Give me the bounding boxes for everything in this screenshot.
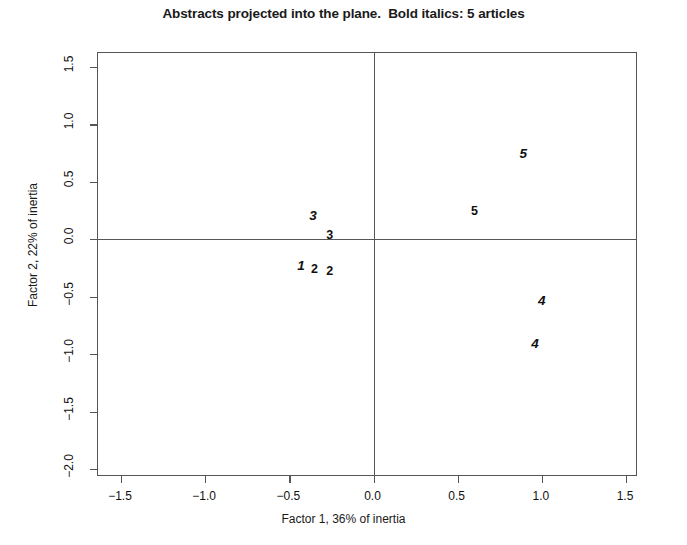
y-tick-mark: [90, 124, 98, 125]
x-tick-mark: [542, 475, 543, 483]
x-tick-mark: [374, 475, 375, 483]
x-tick-label: −1.5: [108, 489, 132, 503]
y-tick-label: −2.0: [56, 459, 82, 473]
y-tick-mark: [90, 354, 98, 355]
data-point-label: 3: [326, 228, 333, 241]
y-tick-mark: [90, 67, 98, 68]
y-tick-label: −1.5: [56, 402, 82, 416]
data-point-label: 2: [311, 263, 318, 276]
page-title: Abstracts projected into the plane. Bold…: [0, 6, 687, 21]
y-tick-mark: [90, 239, 98, 240]
x-axis-label: Factor 1, 36% of inertia: [0, 512, 687, 526]
x-tick-label: 0.0: [364, 489, 381, 503]
data-point-label: 1: [297, 259, 305, 273]
y-tick-mark: [90, 412, 98, 413]
x-tick-mark: [626, 475, 627, 483]
y-tick-mark: [90, 297, 98, 298]
y-tick-label: 1.5: [56, 57, 82, 71]
y-tick-mark: [90, 182, 98, 183]
y-tick-label: 1.0: [56, 114, 82, 128]
data-point-label: 5: [520, 148, 528, 162]
scatter-plot-figure: Abstracts projected into the plane. Bold…: [0, 0, 687, 545]
x-tick-label: 1.0: [532, 489, 549, 503]
data-point-label: 2: [326, 265, 333, 278]
data-point-label: 3: [309, 210, 317, 224]
x-tick-mark: [205, 475, 206, 483]
plot-area: 331225544: [97, 52, 637, 476]
y-axis-label: Factor 2, 22% of inertia: [26, 125, 40, 365]
horizontal-reference-line: [98, 239, 636, 240]
y-tick-label: 0.0: [56, 229, 82, 243]
y-tick-label: −0.5: [56, 287, 82, 301]
x-tick-label: 1.5: [617, 489, 634, 503]
x-tick-label: −1.0: [192, 489, 216, 503]
data-point-label: 4: [538, 295, 546, 309]
x-tick-label: 0.5: [448, 489, 465, 503]
x-tick-mark: [458, 475, 459, 483]
x-tick-mark: [121, 475, 122, 483]
y-tick-label: 0.5: [56, 172, 82, 186]
y-tick-label: −1.0: [56, 344, 82, 358]
y-tick-mark: [90, 469, 98, 470]
data-point-label: 4: [531, 337, 539, 351]
x-tick-label: −0.5: [276, 489, 300, 503]
data-point-label: 5: [471, 204, 478, 217]
vertical-reference-line: [374, 53, 375, 475]
x-tick-mark: [289, 475, 290, 483]
